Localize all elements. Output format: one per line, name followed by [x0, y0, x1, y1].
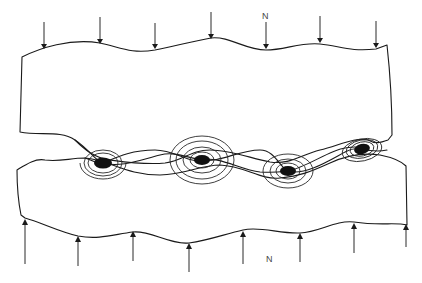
down-arrow-icon	[208, 12, 214, 39]
contact-point-4	[340, 135, 384, 165]
upper-block-outline	[20, 38, 392, 164]
down-arrow-icon	[373, 21, 379, 48]
down-arrow-icon	[152, 23, 158, 49]
up-arrow-icon	[351, 223, 357, 253]
interface-line-lower	[85, 147, 387, 172]
up-arrow-icon	[186, 243, 192, 272]
contact-point-2	[170, 136, 234, 184]
rough-surface-contact-diagram: N N	[0, 0, 422, 283]
up-arrow-icon	[297, 233, 303, 262]
bottom-load-label: N	[266, 254, 273, 264]
down-arrow-icon	[263, 22, 269, 49]
top-load-arrows	[41, 12, 379, 49]
up-arrow-icon	[75, 236, 81, 266]
down-arrow-icon	[41, 22, 47, 49]
top-load-label: N	[262, 11, 269, 21]
down-arrow-icon	[97, 17, 103, 44]
up-arrow-icon	[22, 219, 28, 264]
up-arrow-icon	[130, 231, 136, 261]
lower-block-outline	[17, 154, 407, 243]
bottom-load-arrows	[22, 219, 409, 272]
down-arrow-icon	[317, 16, 323, 43]
up-arrow-icon	[403, 224, 409, 247]
up-arrow-icon	[240, 231, 246, 264]
